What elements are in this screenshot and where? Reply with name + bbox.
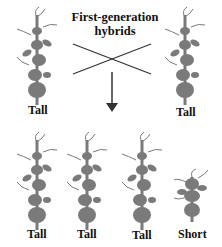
offspring-label-3: Tall xyxy=(132,228,152,243)
offspring-plant-2 xyxy=(67,132,107,230)
offspring-plant-short xyxy=(174,169,208,222)
title-line-1: First-generation xyxy=(70,10,160,24)
diagram-title: First-generation hybrids xyxy=(70,10,160,38)
parent-label-2: Tall xyxy=(176,105,196,120)
offspring-plant-1 xyxy=(17,132,57,230)
offspring-label-1: Tall xyxy=(27,227,47,242)
offspring-label-4: Short xyxy=(178,227,207,242)
offspring-label-2: Tall xyxy=(77,227,97,242)
arrow-down-icon xyxy=(106,103,118,112)
title-line-2: hybrids xyxy=(70,24,160,38)
parent-plant-2 xyxy=(165,7,205,105)
parent-label-1: Tall xyxy=(28,103,48,118)
offspring-plant-3 xyxy=(122,132,162,230)
parent-plant-1 xyxy=(17,7,57,105)
